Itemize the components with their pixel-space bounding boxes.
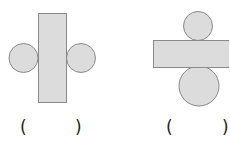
horizontal-rectangle (154, 41, 230, 68)
open-paren: ( (166, 119, 173, 136)
figure-1-net (9, 14, 96, 103)
open-paren: ( (20, 119, 27, 136)
close-paren: ) (222, 119, 229, 136)
top-circle (184, 12, 213, 41)
right-circle (67, 44, 96, 73)
figure-2-net (154, 12, 230, 107)
close-paren: ) (75, 119, 82, 136)
left-circle (9, 44, 38, 73)
bottom-circle (179, 66, 219, 106)
vertical-rectangle (39, 14, 67, 103)
figures-canvas (0, 0, 229, 147)
